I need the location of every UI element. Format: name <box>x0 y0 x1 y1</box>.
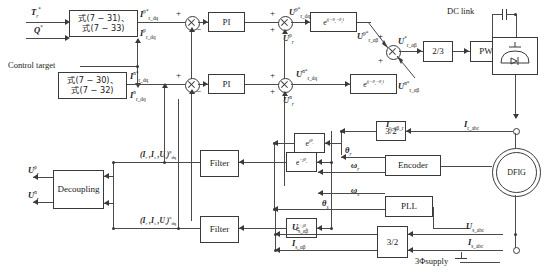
label-ir-dq-p-ref: Ip*r_dq <box>140 8 158 21</box>
line-is-ab <box>275 250 377 251</box>
sign-plus-top-2: + <box>270 9 275 18</box>
arrow-theta-r <box>341 154 346 160</box>
node-dot-feed-top <box>330 161 333 164</box>
bus-measurement-feed <box>331 162 332 228</box>
line-dfig-to-encoder <box>441 166 492 167</box>
line-dfig-rotor-top <box>515 133 516 149</box>
block-pll[interactable]: PLL <box>385 196 433 217</box>
line-dc-left <box>492 14 502 15</box>
line-pi-to-sum-neg <box>245 84 279 85</box>
sign-plus-top-3: + <box>270 25 275 34</box>
block-filter-negative[interactable]: Filter <box>200 216 239 243</box>
block-dfig[interactable]: DFIG <box>496 152 537 193</box>
sign-minus-top-1: − <box>196 25 201 34</box>
node-dot-filter-pos <box>112 161 115 164</box>
block-decoupling[interactable]: Decoupling <box>53 170 104 209</box>
sign-plus-top-1: + <box>176 9 181 18</box>
block-pi-positive[interactable]: PI <box>208 12 245 32</box>
arrow-decoupling-in-bottom <box>104 200 109 206</box>
arrow-is-abc <box>408 247 413 253</box>
label-omega-r: ωr <box>351 160 359 172</box>
label-us-abc: Us_abc <box>466 221 484 233</box>
node-dot-stator-i <box>274 249 277 252</box>
line-pll-supply <box>433 207 434 228</box>
label-ur-n-out: Unr <box>28 189 39 202</box>
line-us-abc <box>408 234 503 235</box>
label-reactive-ref: Q* <box>34 24 43 35</box>
line-supply <box>460 262 500 263</box>
label-filter-signal-neg: (Ir ,Is ,Us)ndq <box>140 215 176 226</box>
line-pll-supply-h <box>433 228 469 229</box>
node-dot-filter-neg <box>112 227 115 230</box>
line-diag-neg-to-sum3 <box>397 52 423 82</box>
node-dot-rotor-bus <box>340 130 343 133</box>
line-pi-to-sum-top <box>245 22 279 23</box>
arrow-us-abc <box>408 231 413 237</box>
block-encoder[interactable]: Encoder <box>385 155 441 176</box>
sign-plus-neg-3: + <box>270 87 275 96</box>
sign-plus-neg-2: + <box>270 71 275 80</box>
label-filter-signal-pos: (Ir ,Is ,Us)pdq <box>140 149 176 160</box>
stator-current-sensor-icon <box>513 247 520 254</box>
block-equation-negative[interactable]: 式(7 − 30)、 式(7 − 32) <box>58 72 127 99</box>
arrow-23-to-pwm <box>464 48 469 54</box>
sign-minus-neg-1: − <box>196 87 201 96</box>
arrow-expposjs-to-filter-neg <box>239 225 244 231</box>
arrow-feed-to-expneg <box>317 159 322 165</box>
line-control-target <box>80 66 138 67</box>
sign-plus-sum3-1: + <box>378 32 383 41</box>
label-ur-ab-ref: U*r_αβ <box>398 35 417 48</box>
line-filter-pos-out <box>113 162 200 163</box>
line-eqneg-to-sum <box>127 84 185 85</box>
label-supply: 3Φsupply <box>415 256 448 266</box>
block-rotation-positive[interactable]: ej(−θs−θr) <box>310 12 357 32</box>
supply-ground-stem <box>461 252 462 259</box>
label-ir-dq-p-fb: Ipr_dq <box>140 27 156 40</box>
block-two-three[interactable]: 2/3 <box>423 41 453 62</box>
block-equation-positive[interactable]: 式(7 − 31)、 式(7 − 33) <box>69 10 138 37</box>
block-three-two-stator[interactable]: 3/2 <box>377 226 408 258</box>
label-control-target: Control target <box>8 60 55 70</box>
node-dot-supply-u <box>514 233 517 236</box>
line-converter-to-dfig <box>515 75 516 118</box>
arrow-32-input-rotor <box>406 128 411 134</box>
block-rotation-negative[interactable]: ej(−θs−θr) <box>350 74 397 94</box>
arrow-fb-top-current <box>189 27 195 32</box>
node-dot-stator-u <box>274 233 277 236</box>
block-pi-negative[interactable]: PI <box>208 74 245 94</box>
sign-plus-neg-1: + <box>176 71 181 80</box>
line-dc-down-left <box>492 14 493 37</box>
label-ur-dq-n-ref: Un*r_dq <box>296 68 317 81</box>
line-is-abc <box>408 250 503 251</box>
node-dot-dc <box>514 13 517 16</box>
arrow-ur-p-up <box>282 29 288 34</box>
label-ir-abc: Ir_abc <box>464 119 479 131</box>
line-filter-feedback-up <box>164 85 165 163</box>
arrow-filter-feedback-up <box>162 83 168 88</box>
rot-neg-expr: ej(−θs−θr) <box>363 79 384 89</box>
node-dot-angle-bottom <box>273 208 276 211</box>
node-dot-control-target <box>136 65 139 68</box>
rot-pos-expr: ej(−θs−θr) <box>323 17 344 27</box>
arrow-feed-to-exppos <box>317 225 322 231</box>
label-is-ab: Is_αβ <box>292 238 305 250</box>
block-filter-positive[interactable]: Filter <box>200 150 239 177</box>
line-bus-curves <box>274 143 334 223</box>
label-ur-p-out: Upr <box>28 164 39 177</box>
label-dc-link: DC link <box>447 6 474 16</box>
label-omega-s: ωs <box>351 185 359 197</box>
line-theta-r <box>341 157 385 158</box>
label-is-abc: Is_abc <box>468 237 483 249</box>
line-reactive-ref <box>26 38 66 39</box>
igbt-symbol-icon <box>496 41 534 71</box>
line-filter-neg-feedback-up <box>178 99 179 229</box>
bus-measurement-rotor-link <box>331 131 332 163</box>
label-us-ab: Us_αβ <box>292 222 308 234</box>
line-filter-neg-out <box>113 228 200 229</box>
line-dfig-stator <box>515 195 516 250</box>
diagram-canvas: Tr* Q* Control target 式(7 − 31)、 式(7 − 3… <box>0 0 551 278</box>
eq-pos-line2: 式(7 − 33) <box>82 24 124 33</box>
capacitor-plate-left <box>502 9 503 20</box>
node-dot-fb-neg <box>177 227 180 230</box>
sign-plus-sum3-2: + <box>378 56 383 65</box>
